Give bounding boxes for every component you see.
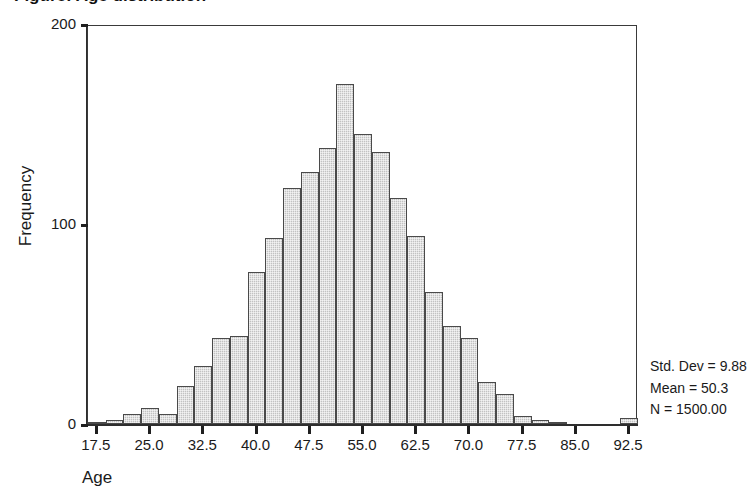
y-axis-tick [81,24,88,27]
x-axis-tick-label: 25.0 [121,436,177,453]
histogram-figure: Figure: Age distribution 0100200 Frequen… [0,0,752,496]
x-axis-tick-label: 55.0 [334,436,390,453]
histogram-bar [496,394,514,424]
plot-area [87,25,637,425]
x-axis-tick [521,426,524,434]
x-axis-tick-label: 62.5 [387,436,443,453]
histogram-bar [265,238,283,424]
histogram-bar [123,414,141,424]
x-axis-tick-label: 70.0 [440,436,496,453]
x-axis-title: Age [82,468,112,488]
x-axis-tick-label: 17.5 [68,436,124,453]
x-axis-tick [627,426,630,434]
histogram-bar [212,338,230,424]
x-axis-tick [574,426,577,434]
stat-n: N = 1500.00 [650,399,747,421]
histogram-bar [514,416,532,424]
x-axis-tick [467,426,470,434]
x-axis-tick-label: 85.0 [547,436,603,453]
x-axis-tick [414,426,417,434]
x-axis-tick-label: 32.5 [174,436,230,453]
histogram-bar [336,84,354,424]
y-axis-labels: 0100200 [0,0,76,496]
x-axis-tick [201,426,204,434]
histogram-bar [194,366,212,424]
x-axis-tick [308,426,311,434]
figure-title-strip: Figure: Age distribution [0,0,752,14]
x-axis-tick-label: 47.5 [281,436,337,453]
x-axis-tick [361,426,364,434]
histogram-bar [248,272,266,424]
histogram-bar [141,408,159,424]
statistics-annotation: Std. Dev = 9.88 Mean = 50.3 N = 1500.00 [650,356,747,421]
x-axis-tick [95,426,98,434]
histogram-bars [88,26,636,424]
y-axis-tick-label: 100 [51,215,76,232]
stat-std-dev: Std. Dev = 9.88 [650,356,747,378]
histogram-bar [177,386,195,424]
histogram-bar [407,236,425,424]
histogram-bar [425,292,443,424]
x-axis-tick [148,426,151,434]
stat-mean: Mean = 50.3 [650,378,747,400]
histogram-bar [372,152,390,424]
y-axis-tick [81,424,88,427]
histogram-bar [283,188,301,424]
x-axis-tick-label: 40.0 [228,436,284,453]
histogram-bar [159,414,177,424]
histogram-bar [443,326,461,424]
histogram-bar [478,382,496,424]
histogram-bar [390,198,408,424]
y-axis-tick-label: 0 [68,415,76,432]
histogram-bar [354,134,372,424]
x-axis-tick-label: 92.5 [600,436,656,453]
y-axis-tick-label: 200 [51,15,76,32]
y-axis-tick [81,224,88,227]
histogram-bar [301,172,319,424]
x-axis-tick [255,426,258,434]
y-axis-title: Frequency [16,116,36,296]
x-axis-tick-label: 77.5 [494,436,550,453]
histogram-bar [319,148,337,424]
histogram-bar [461,338,479,424]
histogram-bar [230,336,248,424]
